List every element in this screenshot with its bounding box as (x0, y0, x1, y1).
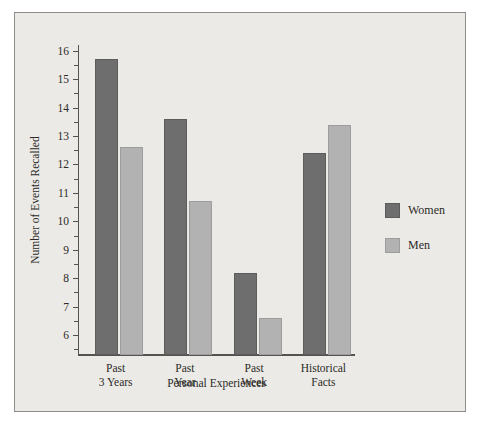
bar-women (164, 119, 187, 355)
y-tick-label-7: 7 (63, 301, 69, 313)
bar-women (303, 153, 326, 355)
bar-women (234, 273, 257, 355)
y-tick-label-15: 15 (58, 73, 70, 85)
y-tick-label-13: 13 (58, 130, 70, 142)
legend-swatch-men (385, 238, 400, 253)
bar-group (295, 45, 354, 355)
y-tick-8 (73, 278, 78, 279)
bar-men (120, 147, 143, 355)
y-tick-label-9: 9 (63, 244, 69, 256)
y-tick-minor (74, 292, 78, 293)
y-axis-title: Number of Events Recalled (29, 136, 41, 263)
y-tick-minor (74, 207, 78, 208)
y-tick-minor (74, 349, 78, 350)
y-tick-label-6: 6 (63, 329, 69, 341)
y-tick-minor (74, 236, 78, 237)
legend-label-men: Men (408, 238, 430, 253)
y-tick-12 (73, 164, 78, 165)
y-tick-minor (74, 179, 78, 180)
bar-men (189, 201, 212, 355)
bar-group (87, 45, 146, 355)
y-tick-minor (74, 93, 78, 94)
y-tick-7 (73, 307, 78, 308)
y-tick-label-12: 12 (58, 158, 70, 170)
y-tick-minor (74, 321, 78, 322)
y-tick-label-8: 8 (63, 272, 69, 284)
y-axis-line (78, 45, 79, 355)
bar-group (226, 45, 285, 355)
legend-label-women: Women (408, 203, 445, 218)
y-tick-label-14: 14 (58, 102, 70, 114)
x-axis-title: Personal Experiences (78, 377, 355, 389)
y-tick-minor (74, 150, 78, 151)
plot-area: 678910111213141516 Past3 YearsPastYearPa… (78, 45, 355, 355)
y-tick-16 (73, 51, 78, 52)
y-tick-10 (73, 221, 78, 222)
y-tick-6 (73, 335, 78, 336)
chart-figure: Number of Events Recalled 67891011121314… (14, 12, 466, 412)
bar-men (328, 125, 351, 355)
category-label-line: Historical (278, 361, 368, 375)
bar-women (95, 59, 118, 355)
legend-item-men: Men (385, 238, 445, 253)
y-tick-minor (74, 122, 78, 123)
y-tick-14 (73, 108, 78, 109)
y-tick-9 (73, 250, 78, 251)
y-tick-label-11: 11 (58, 187, 69, 199)
y-tick-minor (74, 264, 78, 265)
y-tick-15 (73, 79, 78, 80)
y-tick-11 (73, 193, 78, 194)
y-tick-13 (73, 136, 78, 137)
bar-men (259, 318, 282, 355)
chart-legend: Women Men (385, 203, 445, 273)
y-tick-label-16: 16 (58, 45, 70, 57)
legend-swatch-women (385, 203, 400, 218)
legend-item-women: Women (385, 203, 445, 218)
y-tick-minor (74, 65, 78, 66)
y-tick-label-10: 10 (58, 215, 70, 227)
bar-group (156, 45, 215, 355)
